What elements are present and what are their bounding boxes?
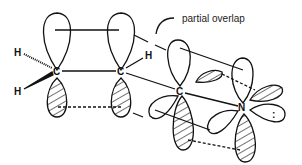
p-orbital-lobe-top-n: [232, 58, 253, 103]
p-orbital-lobe-bottom-c1: [47, 78, 67, 117]
p-orbital-lobe-bottom-c2: [111, 78, 131, 117]
caption-partial-overlap: partial overlap: [182, 13, 245, 24]
p-orbital-lobe-top-c3: [168, 40, 191, 86]
c1-h2-wedge-bond: [24, 72, 53, 89]
atom-n: N: [238, 102, 245, 113]
atom-c3: C: [176, 86, 183, 97]
partial-overlap-dash-top-2: [155, 45, 166, 50]
partial-overlap-dash-bottom: [133, 113, 143, 117]
lone-pair-lobe-n: [250, 104, 285, 122]
c2-c3-bond: [126, 73, 175, 89]
c2-h3-bond: [126, 58, 143, 68]
sp2-lobe-n-upper: [250, 85, 283, 101]
p-orbital-lobe-bottom-n: [235, 114, 255, 162]
c1-h1-hashed-bond: [24, 54, 52, 68]
p-orbital-lobe-top-c1: [43, 13, 70, 70]
atom-c2: C: [117, 66, 124, 77]
dashed-overlap-c3-n-bottom: [188, 140, 240, 150]
sp2-lobe-c3-upper: [196, 70, 222, 82]
atom-h3: H: [145, 50, 152, 61]
partial-overlap-callout: [156, 18, 174, 34]
lone-pair: :: [272, 109, 275, 120]
atom-h1: H: [14, 47, 21, 58]
atom-c1: C: [53, 66, 60, 77]
c3-n-bond: [185, 93, 238, 106]
p-orbital-lobe-top-c2: [107, 13, 134, 70]
partial-overlap-dash-top: [134, 35, 148, 42]
orbital-overlap-diagram: C C C N H H H : partial overlap: [0, 0, 302, 165]
atom-h2: H: [14, 86, 21, 97]
dashed-overlap-c3-n-upper: [222, 74, 255, 90]
sp2-lobe-n-left: [208, 110, 238, 133]
